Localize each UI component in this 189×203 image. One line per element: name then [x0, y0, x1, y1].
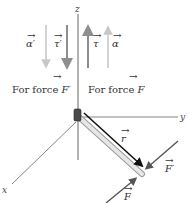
alpha-prime-arrow-glyph: → [27, 30, 36, 41]
right-caption-arrow-glyph: → [129, 71, 138, 82]
force-f: F → [106, 180, 134, 203]
x-axis: x [2, 122, 76, 195]
left-caption-arrow-glyph: → [53, 71, 62, 82]
r-vector: r → [84, 113, 140, 164]
f-prime-arrow-glyph: → [165, 155, 174, 166]
tau-arrow-glyph: → [93, 30, 102, 41]
tau-prime-vector: τ′ → [54, 25, 67, 64]
z-axis: z [74, 4, 80, 160]
right-caption: For force F [88, 84, 146, 95]
tau-vector: τ → [88, 30, 102, 68]
z-axis-label: z [74, 4, 80, 14]
rod [80, 118, 142, 174]
alpha-arrow-glyph: → [113, 30, 122, 41]
alpha-prime-vector: α′ → [26, 25, 46, 64]
f-arrow-glyph: → [124, 183, 133, 194]
force-f-prime: F′ → [148, 141, 178, 174]
tau-prime-arrow-glyph: → [54, 30, 63, 41]
alpha-vector: α → [108, 30, 122, 68]
r-arrow-glyph: → [121, 125, 130, 136]
y-axis-label: y [179, 112, 186, 122]
pivot [74, 109, 81, 121]
x-axis-label: x [2, 185, 7, 195]
left-caption: For force F′ [12, 84, 72, 95]
y-axis: y [80, 112, 186, 122]
torque-diagram: z y x α′ → τ′ → τ → α → For force F′ → F… [0, 0, 189, 203]
